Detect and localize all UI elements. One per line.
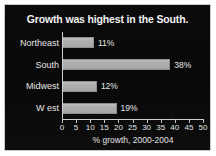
x-axis-title: % growth, 2000-2004	[62, 135, 204, 145]
bar-container-south: 38%	[63, 54, 210, 76]
bar-row-midwest: Midwest 12%	[5, 76, 210, 98]
x-tick-label: 20	[114, 123, 123, 132]
category-label-northeast: Northeast	[5, 38, 59, 48]
x-tick-label: 40	[170, 123, 179, 132]
chart-figure: Growth was highest in the South. Northea…	[0, 0, 216, 156]
bar-row-south: South 38%	[5, 54, 210, 76]
chart-title: Growth was highest in the South.	[5, 13, 210, 25]
bar-value-northeast: 11%	[98, 38, 114, 48]
bar-west[interactable]	[63, 103, 117, 114]
bar-container-midwest: 12%	[63, 76, 210, 98]
bar-value-midwest: 12%	[101, 81, 118, 91]
bar-container-northeast: 11%	[63, 32, 210, 54]
chart-plate: Growth was highest in the South. Northea…	[4, 4, 211, 151]
bar-midwest[interactable]	[63, 81, 97, 92]
x-tick-label: 35	[156, 123, 165, 132]
category-label-west: W est	[5, 103, 59, 113]
category-label-south: South	[5, 60, 59, 70]
bar-south[interactable]	[63, 59, 170, 70]
bar-rows: Northeast 11% South 38% Midwest	[5, 32, 210, 119]
x-tick-label: 25	[128, 123, 137, 132]
category-label-midwest: Midwest	[5, 81, 59, 91]
x-tick-label: 15	[100, 123, 109, 132]
plot-area: Northeast 11% South 38% Midwest	[5, 30, 210, 150]
x-tick-label: 45	[184, 123, 193, 132]
bar-northeast[interactable]	[63, 37, 94, 48]
x-tick-label: 0	[60, 123, 64, 132]
bar-row-northeast: Northeast 11%	[5, 32, 210, 54]
bar-row-west: W est 19%	[5, 97, 210, 119]
x-tick-label: 50	[199, 123, 208, 132]
bar-value-south: 38%	[174, 60, 191, 70]
bar-value-west: 19%	[121, 103, 138, 113]
x-tick-label: 30	[142, 123, 151, 132]
bar-container-west: 19%	[63, 97, 210, 119]
x-tick-label: 5	[74, 123, 78, 132]
x-tick-label: 10	[86, 123, 95, 132]
